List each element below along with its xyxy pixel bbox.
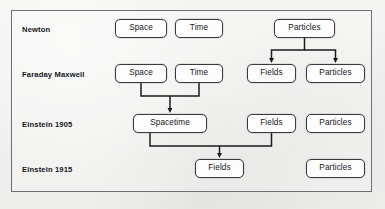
row-label-faraday-maxwell: Faraday Maxwell: [22, 71, 85, 79]
node-space-faraday-maxwell[interactable]: Space: [115, 64, 167, 83]
node-fields-einstein-1905[interactable]: Fields: [247, 114, 296, 133]
row-label-newton: Newton: [22, 26, 50, 34]
diagram-page: Newton Faraday Maxwell Einstein 1905 Ein…: [0, 0, 385, 209]
node-space-newton[interactable]: Space: [115, 19, 167, 38]
node-particles-einstein-1915[interactable]: Particles: [306, 159, 365, 178]
node-particles-einstein-1905[interactable]: Particles: [306, 114, 365, 133]
row-label-einstein-1905: Einstein 1905: [22, 121, 73, 129]
node-fields-einstein-1915[interactable]: Fields: [195, 159, 244, 178]
row-label-einstein-1915: Einstein 1915: [22, 166, 73, 174]
node-time-newton[interactable]: Time: [175, 19, 223, 38]
node-time-faraday-maxwell[interactable]: Time: [175, 64, 223, 83]
node-particles-newton[interactable]: Particles: [274, 19, 335, 38]
node-spacetime-einstein-1905[interactable]: Spacetime: [133, 114, 207, 133]
node-particles-faraday-maxwell[interactable]: Particles: [306, 64, 365, 83]
node-fields-faraday-maxwell[interactable]: Fields: [247, 64, 296, 83]
